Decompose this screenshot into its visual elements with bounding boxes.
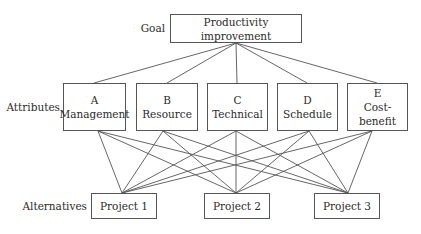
attribute-letter: A	[91, 93, 99, 107]
goal-text: Productivity improvement	[171, 15, 301, 43]
alternative-node-project-2: Project 2	[204, 193, 270, 219]
attribute-letter: D	[303, 93, 311, 107]
attribute-node-cost-benefit: E Cost-benefit	[347, 83, 408, 131]
attribute-name: Technical	[212, 107, 263, 121]
alternative-node-project-3: Project 3	[314, 193, 380, 219]
attribute-letter: E	[374, 86, 382, 100]
alternatives-row-label: Alternatives	[20, 199, 87, 213]
attribute-name: Schedule	[283, 107, 332, 121]
attribute-name: Management	[59, 107, 129, 121]
attribute-node-technical: C Technical	[207, 83, 268, 131]
attributes-row-label: Attributes	[0, 100, 60, 114]
attribute-name: Cost-benefit	[348, 100, 407, 128]
attribute-name: Resource	[142, 107, 192, 121]
alternative-name: Project 1	[100, 199, 148, 213]
attribute-node-management: A Management	[63, 83, 126, 131]
alternative-name: Project 2	[213, 199, 261, 213]
attribute-node-schedule: D Schedule	[277, 83, 338, 131]
goal-row-label: Goal	[100, 21, 165, 35]
attribute-letter: B	[163, 93, 171, 107]
alternative-node-project-1: Project 1	[91, 193, 157, 219]
alternative-name: Project 3	[323, 199, 371, 213]
goal-node: Productivity improvement	[170, 14, 302, 43]
attribute-letter: C	[233, 93, 241, 107]
attribute-node-resource: B Resource	[136, 83, 198, 131]
